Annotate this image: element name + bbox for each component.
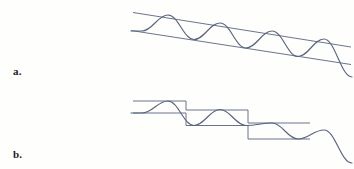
waveform-diagram — [0, 0, 354, 169]
panel-b-group — [131, 101, 352, 163]
oscillation-curve-a — [131, 15, 352, 77]
upper-envelope-line-a — [133, 13, 351, 48]
staircase-envelope-b — [133, 101, 310, 139]
lower-envelope-line-a — [131, 31, 351, 65]
panel-a-group — [131, 13, 352, 78]
figure-canvas: a. b. — [0, 0, 354, 169]
